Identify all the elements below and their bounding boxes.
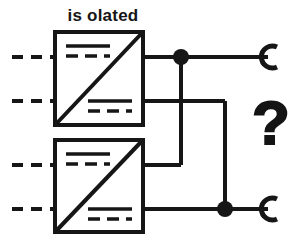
unknown-question-mark: ?	[252, 92, 290, 154]
load-terminal-bottom[interactable]	[261, 198, 277, 220]
net-bottom-output-positive[interactable]	[143, 57, 181, 165]
isolated-dc-dc-converter-top[interactable]	[55, 32, 143, 125]
isolated-dc-dc-converter-bottom[interactable]	[55, 140, 143, 232]
schematic-figure: is olated	[0, 0, 307, 238]
load-terminal-top[interactable]	[261, 46, 277, 68]
input-leads-group	[12, 57, 55, 209]
net-top-output-negative[interactable]	[143, 101, 225, 209]
junction-node-bottom	[217, 201, 233, 217]
junction-node-top	[173, 49, 189, 65]
